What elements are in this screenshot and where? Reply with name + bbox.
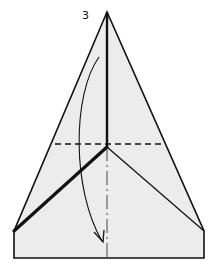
step-number: 3	[82, 9, 89, 22]
paper-shape	[14, 12, 204, 258]
origami-diagram: 3	[0, 0, 216, 276]
